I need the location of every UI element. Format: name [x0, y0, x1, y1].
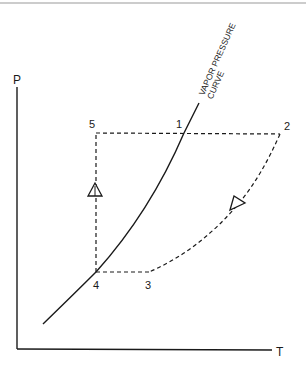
axes: P T [13, 73, 284, 359]
point-1-label: 1 [176, 118, 182, 130]
point-3-label: 3 [145, 279, 151, 291]
point-labels: 1 2 3 4 5 [89, 118, 290, 291]
curve-label: VAPOR PRESSURE CURVE [197, 21, 246, 101]
point-2-label: 2 [284, 120, 290, 132]
p-t-diagram: P T VAPOR PRESSURE CURVE 1 2 3 4 5 [0, 0, 306, 367]
vapor-pressure-curve [43, 103, 199, 324]
point-5-label: 5 [89, 118, 95, 130]
point-4-label: 4 [93, 279, 99, 291]
process-path [96, 133, 280, 272]
path-2-to-3 [149, 134, 280, 272]
path-5-to-2 [96, 133, 280, 134]
y-axis-label: P [13, 73, 21, 87]
x-axis [17, 349, 272, 350]
x-axis-label: T [276, 345, 284, 359]
arrow-down-left-icon [230, 196, 245, 210]
